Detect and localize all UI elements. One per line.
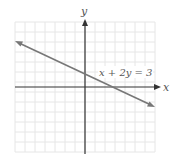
x-axis-label: x [163, 81, 170, 94]
x-axis-arrow-icon [154, 84, 161, 90]
line-arrow-left-icon [15, 41, 23, 47]
equation-label: x + 2y = 3 [99, 67, 153, 78]
y-axis-label: y [80, 5, 88, 18]
coordinate-plane: x y x + 2y = 3 [0, 0, 171, 159]
